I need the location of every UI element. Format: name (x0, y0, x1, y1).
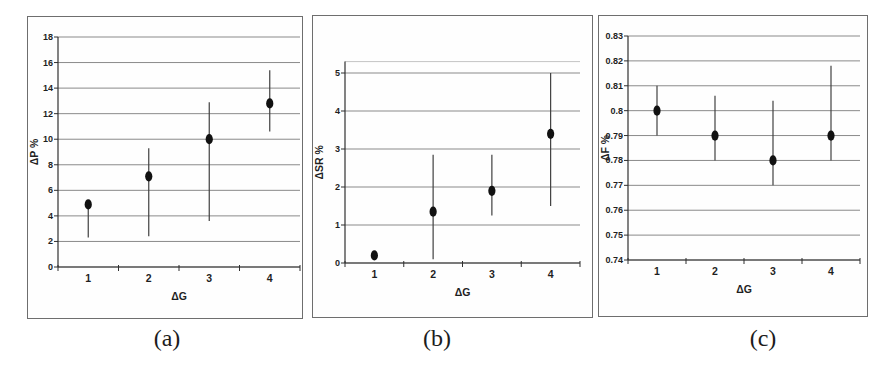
svg-text:4: 4 (267, 272, 273, 284)
svg-text:3: 3 (770, 265, 776, 277)
svg-text:0.83: 0.83 (605, 31, 623, 41)
svg-text:18: 18 (43, 32, 53, 42)
svg-text:4: 4 (548, 268, 554, 280)
svg-text:3: 3 (489, 268, 495, 280)
x-axis-title: ΔG (455, 286, 471, 298)
chart-b-svg: 0123451234ΔSR %ΔG (313, 16, 592, 317)
svg-text:1: 1 (85, 272, 91, 284)
panel-a: 0246810121416181234ΔP %ΔG (27, 16, 303, 319)
svg-text:4: 4 (828, 265, 834, 277)
svg-text:0.75: 0.75 (605, 230, 623, 240)
svg-text:12: 12 (43, 109, 53, 119)
x-axis-title: ΔG (736, 283, 752, 295)
figure-caption-c: (c) (723, 325, 803, 352)
y-axis-title: ΔP % (28, 138, 40, 165)
svg-text:0.8: 0.8 (610, 106, 623, 116)
svg-text:3: 3 (206, 272, 212, 284)
svg-text:3: 3 (335, 144, 340, 154)
svg-text:2: 2 (430, 268, 436, 280)
x-axis-title: ΔG (171, 290, 187, 302)
svg-text:14: 14 (43, 83, 53, 93)
svg-text:1: 1 (654, 265, 660, 277)
figure-caption-a: (a) (127, 325, 207, 352)
svg-text:10: 10 (43, 134, 53, 144)
svg-text:0: 0 (335, 258, 340, 268)
panel-c: 0.740.750.760.770.780.790.80.810.820.831… (598, 15, 868, 317)
svg-text:2: 2 (146, 272, 152, 284)
svg-text:2: 2 (48, 236, 53, 246)
svg-text:16: 16 (43, 58, 53, 68)
svg-text:2: 2 (335, 182, 340, 192)
svg-text:1: 1 (335, 220, 340, 230)
svg-text:1: 1 (371, 268, 377, 280)
y-axis-title: ΔSR % (313, 144, 325, 179)
svg-text:0.74: 0.74 (605, 255, 623, 265)
svg-text:4: 4 (335, 106, 340, 116)
y-axis-title: ΔF % (599, 134, 611, 161)
chart-a-svg: 0246810121416181234ΔP %ΔG (28, 17, 302, 318)
svg-text:0.82: 0.82 (605, 56, 623, 66)
svg-text:5: 5 (335, 68, 340, 78)
svg-text:0.77: 0.77 (605, 180, 623, 190)
svg-text:8: 8 (48, 160, 53, 170)
svg-text:0: 0 (48, 262, 53, 272)
panel-b: 0123451234ΔSR %ΔG (312, 15, 593, 318)
svg-text:2: 2 (712, 265, 718, 277)
chart-c-svg: 0.740.750.760.770.780.790.80.810.820.831… (599, 16, 867, 316)
svg-text:6: 6 (48, 185, 53, 195)
svg-text:0.76: 0.76 (605, 205, 623, 215)
svg-text:4: 4 (48, 211, 53, 221)
svg-text:0.81: 0.81 (605, 81, 623, 91)
figure-caption-b: (b) (397, 325, 477, 352)
